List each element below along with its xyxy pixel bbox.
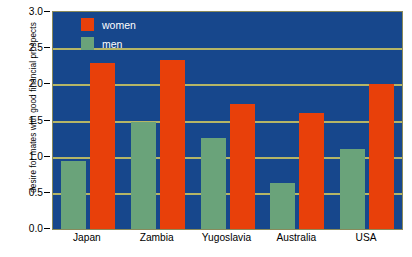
legend-label-women: women <box>102 19 136 31</box>
bar-women-zambia <box>160 60 185 229</box>
y-axis-tick-label: 1.0 <box>29 150 43 161</box>
y-axis-tick-label: 2.5 <box>29 42 43 53</box>
bar-women-usa <box>369 84 394 229</box>
bar-women-australia <box>299 113 324 229</box>
legend-swatch-men-icon <box>81 37 94 50</box>
y-axis-tick-label: 1.5 <box>29 114 43 125</box>
x-axis-tick-label: Australia <box>276 232 316 243</box>
y-axis-tick-mark <box>44 120 50 121</box>
bar-women-yugoslavia <box>230 104 255 229</box>
bar-men-yugoslavia <box>201 138 226 229</box>
bar-men-australia <box>270 183 295 229</box>
bar-men-zambia <box>131 122 156 229</box>
legend-swatch-women-icon <box>81 18 94 31</box>
x-axis-tick-label: Zambia <box>140 232 174 243</box>
legend-item-women: women <box>81 16 201 33</box>
y-axis-tick-mark <box>44 228 50 229</box>
y-axis-tick-label: 2.0 <box>29 78 43 89</box>
y-axis-tick-label: 3.0 <box>29 6 43 17</box>
legend-item-men: men <box>81 35 201 52</box>
x-axis-tick-label: Yugoslavia <box>202 232 251 243</box>
y-axis-tick-mark <box>44 83 50 84</box>
bar-men-usa <box>340 149 365 229</box>
chart-legend: women men <box>81 16 201 54</box>
y-axis-tick-mark <box>44 192 50 193</box>
bar-men-japan <box>61 161 86 229</box>
legend-label-men: men <box>102 38 122 50</box>
y-axis-tick-label: 0.5 <box>29 186 43 197</box>
y-axis-tick-label: 0.0 <box>29 223 43 234</box>
bar-chart: desire for mates with good financial pro… <box>0 0 412 257</box>
x-axis-tick-label: Japan <box>73 232 101 243</box>
plot-area: women men <box>52 11 403 230</box>
y-axis-tick-mark <box>44 47 50 48</box>
y-axis-tick-mark <box>44 156 50 157</box>
x-axis: JapanZambiaYugoslaviaAustraliaUSA <box>52 232 401 252</box>
y-axis: 0.00.51.01.52.02.53.0 <box>0 0 52 257</box>
bar-women-japan <box>90 63 115 229</box>
x-axis-tick-label: USA <box>356 232 377 243</box>
y-axis-tick-mark <box>44 11 50 12</box>
